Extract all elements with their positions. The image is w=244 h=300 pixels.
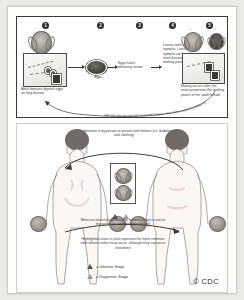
figure-sheet: 1 2 3 4 5 Adult females deposit eggs as … [7, 6, 237, 294]
cdc-copyright: © CDC [193, 277, 219, 286]
transmission-panel: Transmission is by person to person and … [16, 123, 228, 293]
curved-caption: Fertilized females leave their molting p… [104, 100, 207, 117]
step-5-caption: Mating occurs after the male penetrates … [181, 84, 225, 97]
center-mite-icon-1 [116, 168, 131, 184]
life-cycle-panel: 1 2 3 4 5 Adult females deposit eggs as … [16, 16, 228, 118]
arrow-step3-to-step4 [151, 67, 161, 68]
step-marker-2: 2 [97, 22, 104, 29]
figure-page: 1 2 3 4 5 Adult females deposit eggs as … [0, 0, 244, 300]
center-mite-box [110, 163, 136, 204]
mating-illustration [182, 53, 225, 84]
skin-burrow-illustration-1 [23, 53, 67, 87]
step-marker-3: 3 [136, 22, 143, 29]
female-mite-icon [184, 32, 202, 52]
legend-item-diagnostic: = Diagnostic Stage [87, 274, 128, 279]
legend-item-infective: = Infective Stage [87, 264, 124, 269]
arrow-step1-to-step2 [68, 67, 84, 68]
step-3-caption: Eggs hatch releasing larvae [118, 61, 150, 70]
legend-label-diagnostic: = Diagnostic Stage [96, 275, 128, 279]
step-1-caption: Adult females deposit eggs as they burro… [21, 87, 65, 96]
step-marker-5: 5 [206, 22, 213, 29]
legend-label-infective: = Infective Stage [96, 265, 124, 269]
note-rash-sites: Highlighted areas in pink represent the … [79, 237, 167, 250]
egg-label: Eggs [88, 75, 108, 79]
arrow-step2-to-step3 [107, 67, 117, 68]
male-mite-icon [209, 33, 224, 50]
triangle-dark-icon [87, 264, 93, 269]
male-symbol: ♂ [214, 26, 217, 31]
center-mite-icon-2 [116, 185, 131, 201]
egg-icon [86, 60, 107, 75]
note-mite-sites: Mites are found predominantly between fi… [79, 218, 167, 227]
adult-female-mite-icon [31, 31, 52, 54]
step-marker-4: 4 [169, 22, 176, 29]
step-marker-1: 1 [42, 22, 49, 29]
hand-hotspot-right-back [209, 216, 226, 232]
triangle-light-icon [87, 274, 93, 279]
hand-hotspot-left-front [30, 216, 47, 232]
